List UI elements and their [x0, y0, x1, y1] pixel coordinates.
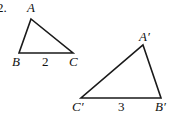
vertex-label-b: B: [12, 54, 20, 69]
vertex-label-c-prime: C′: [72, 99, 84, 114]
side-length-c-prime-b-prime: 3: [118, 99, 125, 114]
triangle-a-prime-b-prime-c-prime: A′ B′ C′ 3: [72, 29, 166, 114]
similar-triangles-diagram: 2. A B C 2 A′ B′ C′ 3: [0, 0, 178, 118]
side-length-bc: 2: [42, 54, 49, 69]
triangle-abc-outline: [19, 19, 73, 53]
problem-number: 2.: [0, 0, 7, 15]
vertex-label-c: C: [69, 54, 78, 69]
vertex-label-b-prime: B′: [155, 99, 166, 114]
vertex-label-a: A: [26, 0, 35, 15]
triangle-abc: A B C 2: [12, 0, 78, 69]
triangle-a-prime-outline: [81, 45, 161, 98]
vertex-label-a-prime: A′: [138, 29, 150, 44]
